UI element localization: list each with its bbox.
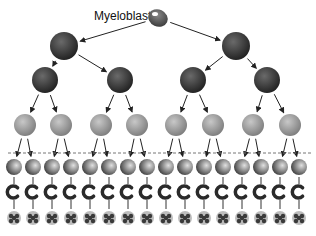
nucleus-lobe [297, 216, 301, 220]
nucleus-lobe [88, 216, 92, 220]
generation-5-cell [158, 159, 174, 175]
generation-3-cell [254, 67, 280, 93]
arrow [106, 95, 113, 112]
nucleus-lobe [126, 216, 130, 220]
band-cell [64, 186, 74, 198]
nucleus-lobe [164, 216, 168, 220]
arrow [53, 61, 56, 66]
arrow [170, 22, 220, 40]
generation-5-cell [253, 159, 269, 175]
generation-2-cell [222, 32, 250, 60]
arrow [283, 139, 287, 157]
nucleus-lobe [69, 216, 73, 220]
arrow [104, 139, 107, 156]
generation-5-cell [120, 159, 136, 175]
generation-4-cell [90, 114, 112, 136]
myeloblast-cell [145, 6, 170, 30]
nucleus-lobe [50, 216, 54, 220]
arrow [64, 139, 68, 157]
arrow [274, 94, 283, 112]
band-cell [7, 186, 17, 198]
generation-2-cell [50, 32, 78, 60]
generation-4-cell [279, 114, 301, 136]
nucleus-lobe [183, 216, 187, 220]
generation-5-cell [291, 159, 307, 175]
band-cell [140, 186, 150, 198]
band-cell [216, 186, 226, 198]
generation-5-cell [82, 159, 98, 175]
band-cell [254, 186, 264, 198]
generation-5-cell [272, 159, 288, 175]
generation-5-cell [101, 159, 117, 175]
band-cell [273, 186, 283, 198]
generation-5-cell [234, 159, 250, 175]
nucleus-lobe [259, 216, 263, 220]
generation-4-cell [14, 114, 36, 136]
generation-4-cell [50, 114, 72, 136]
arrow [206, 57, 223, 71]
arrow [199, 95, 207, 113]
band-cell [235, 186, 245, 198]
nucleus-lobe [221, 216, 225, 220]
generation-4-cell [202, 114, 224, 136]
nucleus-lobe [31, 216, 35, 220]
arrow [126, 95, 132, 112]
arrow [179, 139, 183, 157]
nucleus-lobe [145, 216, 149, 220]
generation-5-cell [44, 159, 60, 175]
nucleus-lobe [240, 216, 244, 220]
arrow [93, 139, 98, 157]
arrow [28, 139, 31, 156]
arrow [54, 139, 58, 157]
band-cell [45, 186, 55, 198]
nucleus-lobe [12, 216, 16, 220]
band-cell [121, 186, 131, 198]
band-cell [197, 186, 207, 198]
arrow [17, 139, 22, 157]
arrow [245, 139, 250, 157]
generation-5-cell [139, 159, 155, 175]
generation-4-cell [126, 114, 148, 136]
nucleus-lobe [107, 216, 111, 220]
generation-4-cell [242, 114, 264, 136]
arrow [130, 139, 134, 157]
arrow [216, 139, 220, 157]
band-cell [102, 186, 112, 198]
arrow [79, 55, 107, 72]
generation-5-cell [6, 159, 22, 175]
generation-3-cell [107, 67, 133, 93]
lineage-diagram [0, 0, 316, 236]
nucleus-lobe [278, 216, 282, 220]
generation-5-cell [177, 159, 193, 175]
band-cell [178, 186, 188, 198]
cells-group [6, 6, 312, 225]
arrow [247, 59, 256, 69]
nucleus-lobe [202, 216, 206, 220]
band-cell [83, 186, 93, 198]
band-cell [292, 186, 302, 198]
arrow [31, 95, 39, 113]
arrow [169, 139, 173, 157]
generation-3-cell [180, 67, 206, 93]
generation-5-cell [25, 159, 41, 175]
band-cell [159, 186, 169, 198]
generation-3-cell [32, 67, 58, 93]
arrow [257, 95, 262, 111]
arrow [50, 95, 56, 112]
generation-5-cell [215, 159, 231, 175]
generation-5-cell [196, 159, 212, 175]
arrow [80, 22, 145, 41]
myeloblast-notch [152, 12, 158, 16]
arrow [293, 139, 297, 157]
arrow [140, 139, 144, 157]
generation-4-cell [165, 114, 187, 136]
generation-5-cell [63, 159, 79, 175]
band-cell [26, 186, 36, 198]
arrow [256, 139, 259, 156]
arrow [206, 139, 210, 157]
arrow [181, 95, 187, 112]
